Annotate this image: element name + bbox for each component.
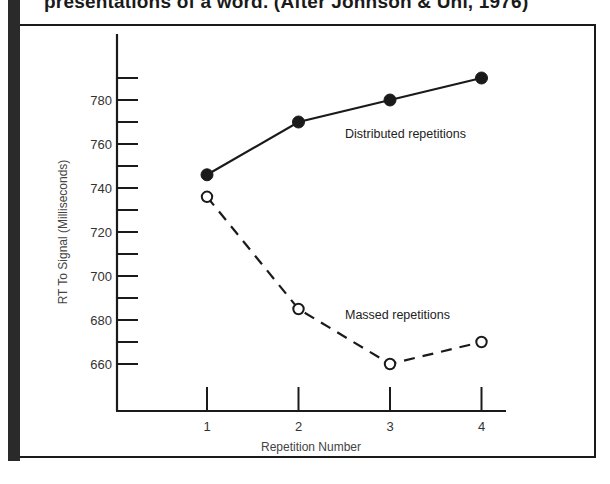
y-tick-label: 780 <box>90 93 112 108</box>
x-tick-label: 4 <box>478 419 485 434</box>
series-line <box>207 197 482 364</box>
data-point-filled <box>384 94 396 106</box>
y-tick-label: 700 <box>90 269 112 284</box>
data-point-open <box>202 192 212 202</box>
data-point-filled <box>476 72 488 84</box>
data-point-filled <box>201 169 213 181</box>
series-label-distributed: Distributed repetitions <box>345 127 466 141</box>
y-tick-label: 660 <box>90 357 112 372</box>
series-group <box>201 72 488 369</box>
y-axis-ticks: 780760740720700680660 <box>90 78 138 372</box>
data-point-open <box>293 304 303 314</box>
data-point-filled <box>293 116 305 128</box>
axes <box>116 34 506 411</box>
y-tick-label: 740 <box>90 181 112 196</box>
x-tick-label: 3 <box>386 419 393 434</box>
data-point-open <box>385 359 395 369</box>
x-axis-label: Repetition Number <box>261 440 361 454</box>
x-tick-label: 1 <box>203 419 210 434</box>
y-axis-label: RT To Signal (Milliseconds) <box>56 160 70 305</box>
line-chart: 780760740720700680660 1234 Distributed r… <box>0 0 610 484</box>
y-tick-label: 720 <box>90 225 112 240</box>
series-label-massed: Massed repetitions <box>345 308 450 322</box>
y-tick-label: 680 <box>90 313 112 328</box>
series-massed <box>202 192 487 370</box>
y-tick-label: 760 <box>90 137 112 152</box>
x-tick-label: 2 <box>295 419 302 434</box>
data-point-open <box>476 337 486 347</box>
